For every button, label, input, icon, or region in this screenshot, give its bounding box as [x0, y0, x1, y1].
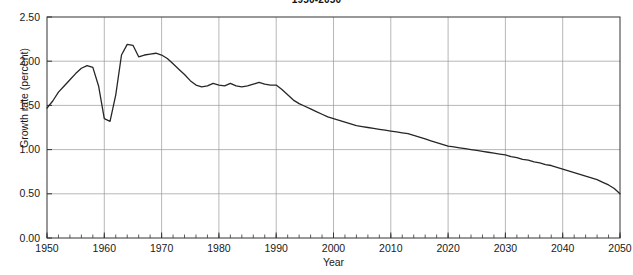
- plot-area: [0, 0, 633, 275]
- gridlines: [47, 17, 620, 238]
- growth-rate-chart: 1950-2050 Growth rate (percent) Year 0.0…: [0, 0, 633, 275]
